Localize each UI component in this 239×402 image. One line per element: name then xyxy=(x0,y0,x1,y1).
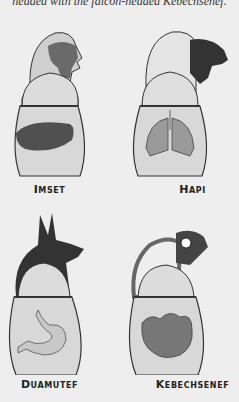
canopic-jar-kebechsenef xyxy=(120,205,239,375)
canopic-jar-duamutef xyxy=(0,205,119,375)
canopic-jar-hapi xyxy=(120,18,239,178)
label-kebechsenef: Kebechsenef xyxy=(133,378,239,391)
label-imset: Imset xyxy=(0,183,109,196)
falcon-head-icon xyxy=(176,231,208,265)
baboon-head-icon xyxy=(190,39,228,84)
caption-text: headed with the falcon-headed Kebechsene… xyxy=(0,0,239,9)
canopic-jar-imset xyxy=(0,18,119,178)
label-hapi: Hapi xyxy=(133,183,239,196)
label-duamutef: Duamutef xyxy=(0,378,109,391)
